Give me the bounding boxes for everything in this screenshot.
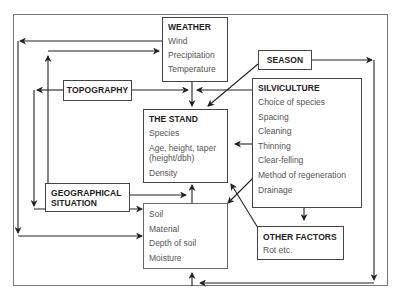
other-factors-title: OTHER FACTORS (263, 231, 338, 244)
stand-title: THE STAND (149, 113, 222, 126)
stand-box: THE STAND Species Age, height, taper (he… (143, 109, 228, 183)
soil-item: Moisture (149, 251, 222, 266)
silviculture-item: Cleaning (258, 124, 356, 139)
other-factors-item: Rot etc. (263, 244, 338, 257)
topography-title: TOPOGRAPHY (67, 85, 128, 96)
soil-item: Material (149, 222, 222, 237)
silviculture-item: Clear-felling (258, 153, 356, 168)
topography-box: TOPOGRAPHY (63, 80, 132, 101)
silviculture-item: Thinning (258, 139, 356, 154)
season-title: SEASON (267, 55, 304, 66)
weather-item: Precipitation (168, 48, 222, 62)
other-factors-box: OTHER FACTORS Rot etc. (257, 226, 344, 260)
geographical-title-line1: GEOGRAPHICAL (51, 188, 124, 198)
silviculture-item: Drainage (258, 183, 356, 198)
weather-item: Temperature (168, 62, 222, 76)
weather-box: WEATHER Wind Precipitation Temperature (162, 17, 228, 82)
soil-box: Soil Material Depth of soil Moisture (143, 203, 228, 269)
silviculture-title: SILVICULTURE (258, 82, 356, 95)
stand-item: Age, height, taper (height/dbh) (149, 143, 222, 163)
geographical-title-line2: SITUATION (51, 198, 124, 208)
silviculture-box: SILVICULTURE Choice of species Spacing C… (252, 78, 362, 208)
stand-item: Density (149, 166, 222, 181)
silviculture-item: Choice of species (258, 95, 356, 110)
silviculture-item: Method of regeneration (258, 168, 356, 183)
geographical-situation-box: GEOGRAPHICAL SITUATION (45, 183, 130, 212)
soil-item: Depth of soil (149, 236, 222, 251)
silviculture-item: Spacing (258, 110, 356, 125)
season-box: SEASON (258, 50, 312, 70)
weather-item: Wind (168, 34, 222, 48)
weather-title: WEATHER (168, 21, 222, 34)
stand-item: Species (149, 126, 222, 141)
soil-item: Soil (149, 207, 222, 222)
